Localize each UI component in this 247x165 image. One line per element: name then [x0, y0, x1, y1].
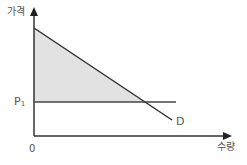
x-axis-arrow-icon [223, 132, 232, 140]
origin-label: 0 [29, 144, 35, 154]
demand-label: D [176, 116, 184, 127]
consumer-surplus-diagram [0, 0, 247, 165]
price-p1-main: P [14, 95, 21, 108]
price-p1-subscript: 1 [21, 100, 25, 108]
price-p1-label: P1 [14, 96, 25, 108]
x-axis-label: 수량 [217, 142, 235, 152]
y-axis-arrow-icon [30, 7, 38, 16]
y-axis-label: 가격 [7, 7, 25, 17]
